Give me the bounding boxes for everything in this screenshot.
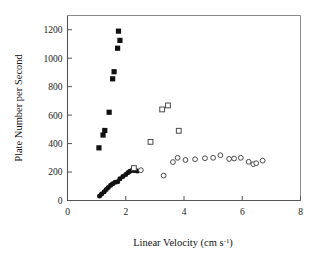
y-tick-label: 800 xyxy=(48,82,63,92)
x-tick-label: 6 xyxy=(240,207,245,217)
point-marker xyxy=(100,132,105,137)
data-points xyxy=(96,29,265,199)
y-tick-label: 1200 xyxy=(44,25,63,35)
y-axis-title: Plate Number per Second xyxy=(13,53,24,161)
point-marker xyxy=(193,157,198,162)
x-tick-label: 8 xyxy=(298,207,303,217)
point-marker xyxy=(110,76,115,81)
point-marker xyxy=(117,38,122,43)
point-marker xyxy=(246,159,251,164)
point-marker xyxy=(102,128,107,133)
series-filled-circles-lower-branch xyxy=(97,168,140,199)
x-tick-label: 2 xyxy=(123,207,128,217)
point-marker xyxy=(115,46,120,51)
y-tick-label: 600 xyxy=(48,111,63,121)
y-tick-label: 200 xyxy=(48,167,63,177)
point-marker xyxy=(203,156,208,161)
series-open-circles-plateau xyxy=(138,153,265,178)
axis-ticks xyxy=(68,30,301,201)
point-marker xyxy=(218,153,223,158)
axis-left-bottom xyxy=(68,16,301,201)
y-tick-label: 1000 xyxy=(44,54,63,64)
point-marker xyxy=(116,29,121,34)
point-marker xyxy=(232,156,237,161)
point-marker xyxy=(227,157,232,162)
point-marker xyxy=(183,158,188,163)
plot-frame xyxy=(68,16,301,201)
x-axis-title: Linear Velocity (cm s-1) xyxy=(133,237,233,250)
point-marker xyxy=(148,139,153,144)
chart-figure: 02468020040060080010001200 Linear Veloci… xyxy=(0,0,318,257)
point-marker xyxy=(112,69,117,74)
point-marker xyxy=(96,145,101,150)
point-marker xyxy=(254,161,259,166)
frame-top-right xyxy=(68,16,301,201)
point-marker xyxy=(211,155,216,160)
y-tick-label: 0 xyxy=(58,196,63,206)
point-marker xyxy=(138,168,143,173)
y-tick-label: 400 xyxy=(48,139,63,149)
point-marker xyxy=(161,173,166,178)
point-marker xyxy=(238,155,243,160)
series-filled-squares-upper-branch xyxy=(96,29,122,151)
point-marker xyxy=(107,110,112,115)
point-marker xyxy=(175,155,180,160)
point-marker xyxy=(176,128,181,133)
axis-tick-labels: 02468020040060080010001200 xyxy=(44,25,304,216)
point-marker xyxy=(260,158,265,163)
x-tick-label: 4 xyxy=(182,207,187,217)
point-marker xyxy=(160,107,165,112)
scatter-plot: 02468020040060080010001200 Linear Veloci… xyxy=(0,0,318,257)
point-marker xyxy=(132,166,137,171)
x-tick-label: 0 xyxy=(65,207,70,217)
point-marker xyxy=(166,103,171,108)
point-marker xyxy=(171,160,176,165)
